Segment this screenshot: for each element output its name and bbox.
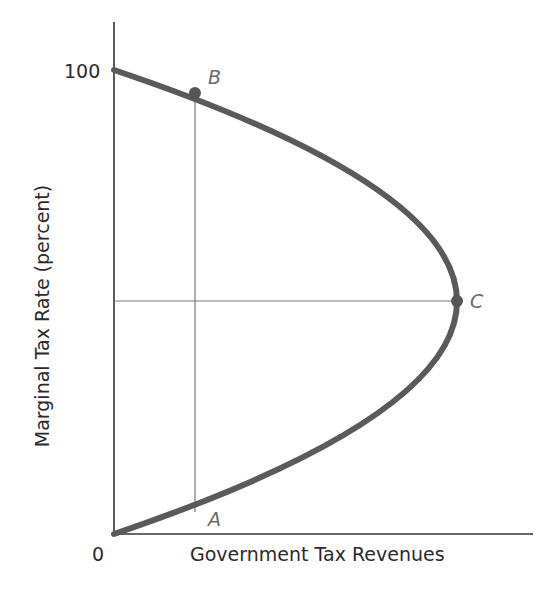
y-axis-label: Marginal Tax Rate (percent)	[31, 185, 53, 447]
point-c-marker	[451, 295, 463, 307]
y-tick-100: 100	[64, 60, 100, 82]
point-b-marker	[189, 87, 201, 99]
x-axis-label: Government Tax Revenues	[190, 543, 445, 565]
point-b-label: B	[208, 66, 221, 88]
origin-label: 0	[92, 543, 104, 565]
laffer-curve	[114, 70, 457, 534]
point-c-label: C	[470, 290, 483, 312]
point-a-label: A	[208, 508, 221, 530]
